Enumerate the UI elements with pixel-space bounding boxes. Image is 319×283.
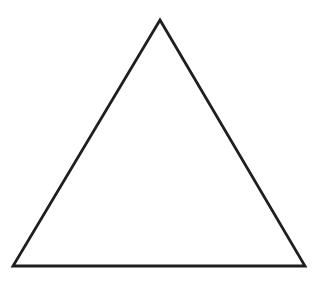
triangle-figure	[0, 0, 319, 283]
background-rect	[0, 0, 319, 283]
image-canvas	[0, 0, 319, 283]
